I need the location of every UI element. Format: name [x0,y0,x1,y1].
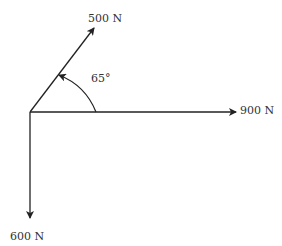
label-900n: 900 N [240,104,274,117]
angle-label: 65° [91,72,111,85]
vector-500n [30,28,94,112]
force-diagram: 500 N 900 N 600 N 65° [0,0,282,246]
label-600n: 600 N [10,230,44,243]
force-vectors [0,0,282,246]
label-500n: 500 N [88,12,122,25]
